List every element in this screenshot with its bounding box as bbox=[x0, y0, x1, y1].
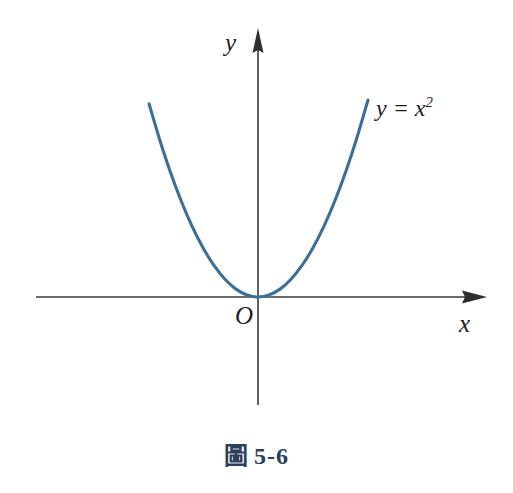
origin-label: O bbox=[235, 303, 253, 328]
y-axis-arrowhead bbox=[253, 28, 264, 53]
curve-equation-base: y = x bbox=[376, 95, 426, 121]
figure-caption-prefix: 圖 bbox=[224, 441, 249, 470]
x-axis-label: x bbox=[459, 311, 470, 336]
figure-container: y x O y = x2 圖5-6 bbox=[0, 0, 513, 493]
figure-caption: 圖5-6 bbox=[0, 436, 513, 471]
y-axis-label: y bbox=[225, 30, 236, 55]
curve-equation-exponent: 2 bbox=[426, 94, 433, 110]
x-axis-arrowhead bbox=[462, 291, 487, 304]
coordinate-plot bbox=[0, 0, 513, 493]
figure-caption-number: 5-6 bbox=[254, 443, 289, 469]
curve-equation-label: y = x2 bbox=[376, 95, 433, 120]
